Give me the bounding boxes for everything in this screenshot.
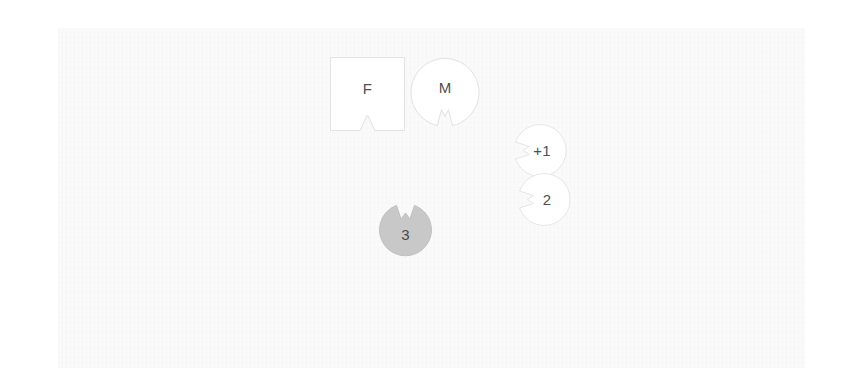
two-circle-glyph	[516, 173, 568, 226]
three-circle-glyph	[378, 202, 433, 256]
diagram-canvas: F M +1 2 3	[0, 0, 843, 388]
shape-f-square[interactable]: F	[330, 57, 405, 131]
f-square-glyph	[330, 57, 405, 131]
shape-m-circle[interactable]: M	[411, 56, 479, 130]
shape-two-circle[interactable]: 2	[516, 173, 568, 226]
shape-three-circle[interactable]: 3	[378, 202, 433, 256]
plus1-circle-glyph	[512, 124, 564, 177]
m-circle-glyph	[411, 56, 479, 130]
shape-plus1-circle[interactable]: +1	[512, 124, 564, 177]
